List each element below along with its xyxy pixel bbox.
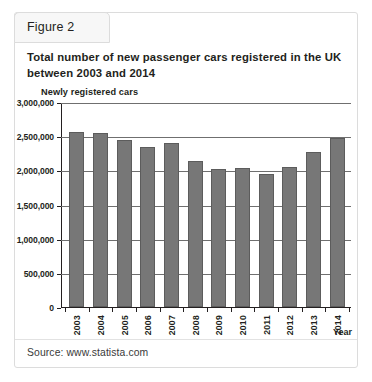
bar-2007 bbox=[164, 143, 179, 307]
y-tick-mark bbox=[57, 206, 61, 207]
y-tick-mark bbox=[57, 308, 61, 309]
plot-area: Newly registered cars 3,000,0002,500,000… bbox=[15, 87, 359, 339]
bar-chart-plot: 3,000,0002,500,0002,000,0001,500,0001,00… bbox=[61, 103, 351, 308]
source-note: Source: www.statista.com bbox=[27, 347, 148, 358]
x-tick-label-2007: 2007 bbox=[167, 315, 177, 335]
bar-2014 bbox=[330, 138, 345, 307]
x-tick-label-2009: 2009 bbox=[214, 315, 224, 335]
x-tick-mark bbox=[65, 308, 66, 312]
x-tick-mark bbox=[136, 308, 137, 312]
x-tick-mark bbox=[349, 308, 350, 312]
x-tick-label-2005: 2005 bbox=[120, 315, 130, 335]
figure-screenshot: Figure 2 Total number of new passenger c… bbox=[0, 0, 372, 382]
y-tick-label: 1,000,000 bbox=[17, 235, 54, 245]
x-tick-label-2010: 2010 bbox=[238, 315, 248, 335]
x-tick-mark bbox=[112, 308, 113, 312]
bar-2012 bbox=[282, 167, 297, 307]
figure-tab-label: Figure 2 bbox=[27, 20, 74, 34]
y-axis-title: Newly registered cars bbox=[41, 87, 138, 97]
x-tick-mark bbox=[160, 308, 161, 312]
x-tick-mark bbox=[231, 308, 232, 312]
bar-2011 bbox=[259, 174, 274, 307]
x-tick-label-2011: 2011 bbox=[262, 315, 272, 335]
figure-tab: Figure 2 bbox=[14, 12, 110, 43]
y-tick-label: 1,500,000 bbox=[17, 201, 54, 211]
y-tick-label: 2,000,000 bbox=[17, 166, 54, 176]
x-tick-label-2003: 2003 bbox=[72, 315, 82, 335]
x-tick-label-2006: 2006 bbox=[143, 315, 153, 335]
x-tick-mark bbox=[89, 308, 90, 312]
x-axis-line bbox=[61, 307, 351, 308]
figure-card: Figure 2 Total number of new passenger c… bbox=[14, 12, 358, 368]
gridline bbox=[61, 103, 351, 104]
y-tick-mark bbox=[57, 103, 61, 104]
x-tick-label-2012: 2012 bbox=[285, 315, 295, 335]
x-tick-mark bbox=[183, 308, 184, 312]
bar-2009 bbox=[211, 169, 226, 307]
x-tick-label-2008: 2008 bbox=[191, 315, 201, 335]
source-divider bbox=[15, 339, 357, 340]
y-tick-label: 3,000,000 bbox=[17, 98, 54, 108]
x-tick-label-2004: 2004 bbox=[96, 315, 106, 335]
y-tick-mark bbox=[57, 171, 61, 172]
x-tick-label-2013: 2013 bbox=[309, 315, 319, 335]
bar-2010 bbox=[235, 168, 250, 307]
x-tick-mark bbox=[207, 308, 208, 312]
bar-2005 bbox=[117, 140, 132, 307]
bar-2006 bbox=[140, 147, 155, 307]
x-tick-mark bbox=[278, 308, 279, 312]
y-tick-label: 500,000 bbox=[24, 269, 54, 279]
y-tick-mark bbox=[57, 240, 61, 241]
y-tick-mark bbox=[57, 274, 61, 275]
chart-title: Total number of new passenger cars regis… bbox=[27, 49, 349, 81]
bar-2003 bbox=[69, 132, 84, 307]
x-tick-mark bbox=[302, 308, 303, 312]
y-tick-label: 0 bbox=[49, 303, 54, 313]
x-axis-title: Year bbox=[333, 327, 352, 337]
y-tick-mark bbox=[57, 137, 61, 138]
x-tick-mark bbox=[325, 308, 326, 312]
x-tick-mark bbox=[254, 308, 255, 312]
y-tick-label: 2,500,000 bbox=[17, 132, 54, 142]
bar-2004 bbox=[93, 133, 108, 307]
bar-2008 bbox=[188, 161, 203, 307]
bar-2013 bbox=[306, 152, 321, 307]
